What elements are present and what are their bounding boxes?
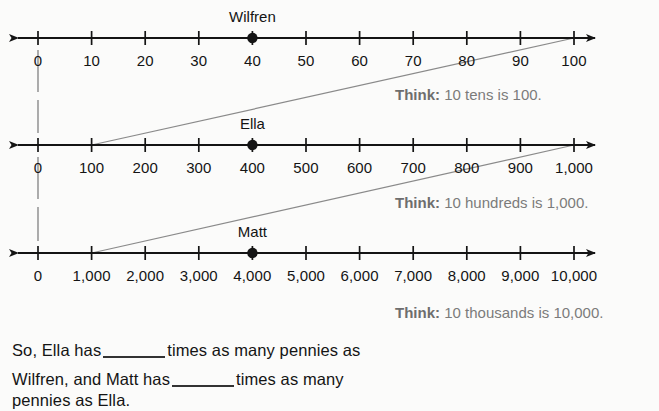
tick-label: 1,000	[73, 267, 111, 284]
tick-label: 8,000	[448, 267, 486, 284]
tick-label: 70	[405, 52, 422, 69]
tick-label: 20	[137, 52, 154, 69]
tick-label: 10,000	[551, 267, 597, 284]
tick-label: 400	[240, 159, 265, 176]
tick-label: 900	[508, 159, 533, 176]
think-prefix: Think:	[395, 304, 440, 321]
tick-label: 200	[133, 159, 158, 176]
question-text-part: pennies as Ella.	[12, 391, 130, 409]
question-line-1: So, Ella hastimes as many pennies as	[12, 341, 360, 360]
tick-label: 0	[34, 159, 42, 176]
think-annotation-hundreds: Think: 10 hundreds is 1,000.	[395, 194, 588, 211]
tick-label: 700	[401, 159, 426, 176]
person-label-wilfren: Wilfren	[229, 8, 276, 25]
tick-label: 500	[293, 159, 318, 176]
tick-label: 2,000	[126, 267, 164, 284]
question-line-3: pennies as Ella.	[12, 391, 130, 410]
point-marker-ella	[247, 140, 257, 150]
tick-label: 1,000	[555, 159, 593, 176]
tick-label: 600	[347, 159, 372, 176]
question-text-part: Wilfren, and Matt has	[12, 370, 170, 388]
person-label-matt: Matt	[238, 223, 267, 240]
point-marker-matt	[247, 248, 257, 258]
tick-label: 10	[83, 52, 100, 69]
person-label-ella: Ella	[240, 115, 265, 132]
tick-label: 40	[244, 52, 261, 69]
tick-label: 100	[79, 159, 104, 176]
tick-label: 9,000	[501, 267, 539, 284]
tick-label: 7,000	[394, 267, 432, 284]
question-text-part: times as many pennies as	[167, 341, 360, 359]
question-text-part: times as many	[236, 370, 344, 388]
tick-label: 100	[561, 52, 586, 69]
think-text: 10 hundreds is 1,000.	[444, 194, 588, 211]
tick-label: 0	[34, 267, 42, 284]
answer-blank-2[interactable]	[172, 385, 234, 387]
tick-label: 30	[190, 52, 207, 69]
tick-label: 3,000	[180, 267, 218, 284]
think-annotation-tens: Think: 10 tens is 100.	[395, 86, 542, 103]
think-text: 10 thousands is 10,000.	[444, 304, 603, 321]
think-prefix: Think:	[395, 194, 440, 211]
tick-label: 800	[454, 159, 479, 176]
point-marker-wilfren	[247, 33, 257, 43]
think-text: 10 tens is 100.	[444, 86, 542, 103]
answer-blank-1[interactable]	[103, 356, 165, 358]
number-line-thousands	[18, 246, 595, 260]
tick-label: 0	[34, 52, 42, 69]
worksheet-page: 0102030405060708090100Wilfren01002003004…	[0, 0, 659, 411]
tick-label: 4,000	[233, 267, 271, 284]
tick-label: 5,000	[287, 267, 325, 284]
tick-label: 60	[351, 52, 368, 69]
tick-label: 50	[298, 52, 315, 69]
number-line-tens	[18, 31, 595, 45]
tick-label: 90	[512, 52, 529, 69]
question-line-2: Wilfren, and Matt hastimes as many	[12, 370, 344, 389]
think-annotation-thousands: Think: 10 thousands is 10,000.	[395, 304, 603, 321]
tick-label: 6,000	[341, 267, 379, 284]
question-text-part: So, Ella has	[12, 341, 101, 359]
tick-label: 80	[458, 52, 475, 69]
number-line-hundreds	[18, 138, 595, 152]
tick-label: 300	[186, 159, 211, 176]
think-prefix: Think:	[395, 86, 440, 103]
